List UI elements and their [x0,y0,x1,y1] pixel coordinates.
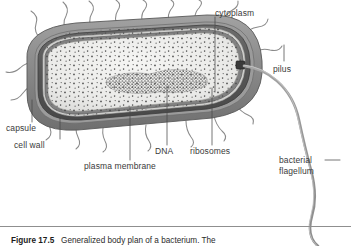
label-bacterial-flagellum-line2: flagellum [279,166,314,176]
cell-envelope [27,15,262,130]
bacterium-figure: cytoplasm pilus capsule cell wall plasma… [0,0,351,246]
label-plasma-membrane: plasma membrane [84,161,156,171]
label-capsule: capsule [6,123,36,133]
figure-caption: Figure 17.5 Generalized body plan of a b… [11,235,216,246]
label-ribosomes: ribosomes [190,146,230,156]
label-bacterial-flagellum-line1: bacterial [279,155,312,165]
label-cell-wall: cell wall [14,140,45,150]
figure-number: Figure 17.5 [11,236,54,245]
label-dna: DNA [155,146,173,156]
label-pilus: pilus [273,64,291,74]
figure-caption-text: Generalized body plan of a bacterium. Th… [61,236,216,245]
caption-divider [0,226,351,227]
label-cytoplasm: cytoplasm [215,8,254,18]
bacterium-diagram [0,0,351,246]
